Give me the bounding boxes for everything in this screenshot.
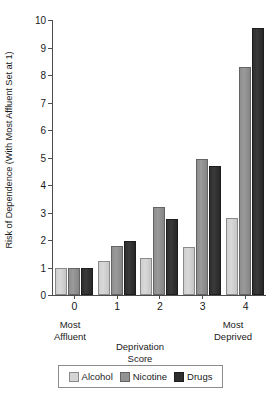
bar-nicotine-1 (111, 246, 123, 296)
x-axis-title: Deprivation Score (105, 341, 175, 364)
y-axis-tick-mark (48, 103, 52, 104)
legend-item-alcohol: Alcohol (69, 371, 113, 382)
legend-item-nicotine: Nicotine (120, 371, 167, 382)
bar-alcohol-4 (226, 218, 238, 295)
y-axis-tick-label: 6 (40, 125, 46, 136)
y-axis-tick-label: 8 (40, 70, 46, 81)
bar-drugs-1 (124, 241, 136, 295)
caption-most-deprived-line1: Most (198, 319, 268, 331)
x-axis-title-line1: Deprivation (105, 341, 175, 353)
y-axis-tick-mark (48, 240, 52, 241)
bar-nicotine-3 (196, 159, 208, 295)
caption-most-deprived: Most Deprived (198, 319, 268, 342)
legend-swatch-drugs (174, 372, 184, 382)
legend-label-drugs: Drugs (187, 371, 212, 382)
legend-swatch-alcohol (69, 372, 79, 382)
x-axis-tick-mark (245, 295, 246, 299)
bar-group-4 (223, 20, 266, 295)
bar-drugs-4 (252, 28, 264, 295)
y-axis-tick-label: 0 (40, 290, 46, 301)
y-axis-tick-label: 4 (40, 180, 46, 191)
y-axis-title: Risk of Dependence (With Most Affluent S… (0, 0, 18, 300)
y-axis-tick-mark (48, 213, 52, 214)
y-axis-tick-mark (48, 20, 52, 21)
y-axis-tick-mark (48, 48, 52, 49)
y-axis-tick-label: 2 (40, 235, 46, 246)
y-axis-tick-mark (48, 295, 52, 296)
bar-alcohol-0 (55, 268, 67, 296)
y-axis-tick-label: 5 (40, 152, 46, 163)
x-axis-tick-label-1: 1 (96, 300, 139, 314)
legend-label-nicotine: Nicotine (133, 371, 167, 382)
y-axis-tick-mark (48, 268, 52, 269)
x-axis-tick-labels: 01234 (53, 300, 267, 314)
bar-groups (53, 20, 266, 295)
bar-group-1 (96, 20, 139, 295)
bar-alcohol-1 (98, 261, 110, 295)
y-axis-tick-label: 9 (40, 42, 46, 53)
caption-most-affluent-line1: Most (35, 319, 105, 331)
bar-group-3 (181, 20, 224, 295)
y-axis-tick-mark (48, 158, 52, 159)
bar-chart-figure: Risk of Dependence (With Most Affluent S… (0, 0, 280, 401)
y-axis-tick-mark (48, 130, 52, 131)
y-axis-tick-label: 10 (35, 15, 46, 26)
x-axis-tick-mark (74, 295, 75, 299)
x-axis-tick-label-0: 0 (53, 300, 96, 314)
y-axis-tick-mark (48, 75, 52, 76)
x-axis-tick-mark (159, 295, 160, 299)
bar-nicotine-4 (239, 67, 251, 295)
chart-legend: AlcoholNicotineDrugs (58, 365, 223, 388)
bar-alcohol-2 (140, 258, 152, 295)
y-axis-tick-label: 7 (40, 97, 46, 108)
x-axis-tick-label-2: 2 (139, 300, 182, 314)
bar-drugs-2 (166, 219, 178, 295)
y-axis-tick-label: 3 (40, 207, 46, 218)
bar-nicotine-2 (153, 207, 165, 295)
bar-drugs-3 (209, 166, 221, 295)
x-axis-tick-label-4: 4 (224, 300, 267, 314)
legend-swatch-nicotine (120, 372, 130, 382)
plot-area: 012345678910 (52, 20, 266, 295)
x-axis-tick-mark (117, 295, 118, 299)
y-axis-tick-mark (48, 185, 52, 186)
legend-label-alcohol: Alcohol (82, 371, 113, 382)
y-axis-tick-label: 1 (40, 262, 46, 273)
x-axis-tick-mark (202, 295, 203, 299)
caption-most-affluent-line2: Affluent (35, 331, 105, 343)
bar-alcohol-3 (183, 247, 195, 295)
bar-group-0 (53, 20, 96, 295)
legend-item-drugs: Drugs (174, 371, 212, 382)
x-axis-title-line2: Score (105, 353, 175, 365)
caption-most-affluent: Most Affluent (35, 319, 105, 342)
bar-drugs-0 (81, 268, 93, 296)
caption-most-deprived-line2: Deprived (198, 331, 268, 343)
x-axis-tick-label-3: 3 (181, 300, 224, 314)
bar-group-2 (138, 20, 181, 295)
bar-nicotine-0 (68, 268, 80, 296)
